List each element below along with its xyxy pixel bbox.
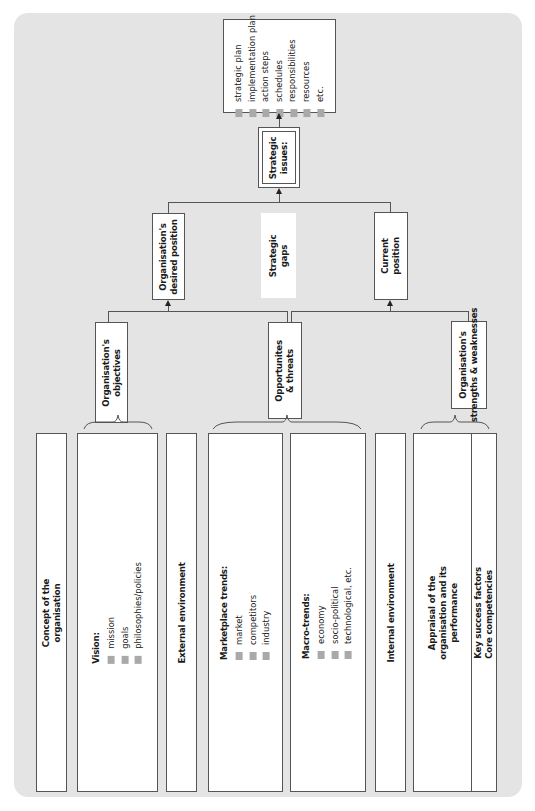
internal-environment-box: Internal environment <box>375 433 406 792</box>
list-item: action steps <box>259 15 273 117</box>
vision-content: Vision: mission goals philosophies/polic… <box>90 562 145 664</box>
list-item: industry <box>259 565 273 659</box>
strategic-issues-label: Strategic issues: <box>268 136 290 179</box>
brace-external-icon <box>212 414 362 430</box>
arrow-up-icon <box>276 113 282 119</box>
bullet-square-icon <box>318 650 325 658</box>
bullet-square-icon <box>121 655 128 663</box>
list-item: resources <box>300 15 314 117</box>
strengths-weaknesses-box: Organisation's strengths & weaknesses <box>451 321 487 409</box>
list-item: mission <box>104 562 118 664</box>
list-item: philosophies/policies <box>131 562 145 664</box>
list-item: etc. <box>313 15 327 117</box>
vision-box: Vision: mission goals philosophies/polic… <box>77 433 158 792</box>
list-item: strategic plan <box>232 15 246 117</box>
connector-line <box>390 202 391 212</box>
external-environment-box: External environment <box>166 433 197 792</box>
arrow-up-icon <box>387 300 393 306</box>
arrow-up-icon <box>276 188 282 194</box>
marketplace-trends-content: Marketplace trends: market competitors i… <box>218 565 273 659</box>
bullet-square-icon <box>235 652 242 660</box>
list-item: responsibilities <box>286 15 300 117</box>
bullet-square-icon <box>332 650 339 658</box>
bullet-square-icon <box>107 655 114 663</box>
list-item: market <box>232 565 246 659</box>
objectives-box: Organisation's objectives <box>95 322 128 423</box>
key-factors-label: Key success factors Core competencies <box>473 567 495 659</box>
desired-position-box: Organisation's desired position <box>152 213 185 300</box>
vision-heading: Vision: <box>90 562 101 664</box>
connector-line <box>279 193 280 202</box>
appraisal-section: Appraisal of the organisation and its pe… <box>414 434 471 791</box>
strategic-gaps-label: Strategic gaps <box>268 234 290 277</box>
bullet-square-icon <box>303 109 310 117</box>
opportunities-threats-box: Opportunites & threats <box>268 322 302 419</box>
desired-position-label: Organisation's desired position <box>158 219 180 294</box>
bullet-square-icon <box>235 109 242 117</box>
outputs-list: strategic plan implementation plan actio… <box>232 15 327 117</box>
connector-line <box>168 202 391 203</box>
macro-trends-heading: Macro-trends: <box>301 567 312 659</box>
strategic-gaps-box: Strategic gaps <box>261 213 296 298</box>
appraisal-label: Appraisal of the organisation and its pe… <box>426 566 459 659</box>
outputs-box: strategic plan implementation plan actio… <box>223 19 336 113</box>
connector-line <box>291 311 292 322</box>
list-item: socio-political <box>328 567 342 659</box>
external-environment-label: External environment <box>176 562 187 663</box>
connector-line <box>291 311 469 312</box>
bullet-square-icon <box>263 652 270 660</box>
concept-box: Concept of the organisation <box>36 433 67 792</box>
macro-trends-content: Macro-trends: economy socio-political te… <box>301 567 356 659</box>
connector-line <box>108 311 109 322</box>
marketplace-trends-heading: Marketplace trends: <box>218 565 229 659</box>
list-item: implementation plan <box>246 15 260 117</box>
brace-vision-icon <box>83 414 153 430</box>
strengths-weaknesses-label: Organisation's strengths & weaknesses <box>458 308 480 422</box>
strategic-issues-box: Strategic issues: <box>258 127 300 188</box>
macro-trends-box: Macro-trends: economy socio-political te… <box>290 433 366 792</box>
key-factors-section: Key success factors Core competencies <box>472 434 496 791</box>
arrow-up-icon <box>165 300 171 306</box>
connector-line <box>108 311 288 312</box>
current-position-label: Current position <box>380 237 402 275</box>
internal-environment-label: Internal environment <box>385 563 396 662</box>
bullet-square-icon <box>135 655 142 663</box>
list-item: goals <box>118 562 132 664</box>
marketplace-trends-box: Marketplace trends: market competitors i… <box>208 433 283 792</box>
brace-internal-icon <box>420 414 490 430</box>
opportunities-threats-label: Opportunites & threats <box>274 340 296 402</box>
list-item: schedules <box>273 15 287 117</box>
bullet-square-icon <box>262 109 269 117</box>
concept-label: Concept of the organisation <box>41 578 63 646</box>
connector-line <box>168 202 169 213</box>
current-position-box: Current position <box>374 212 408 300</box>
bullet-square-icon <box>249 109 256 117</box>
list-item: economy <box>315 567 329 659</box>
appraisal-box: Appraisal of the organisation and its pe… <box>413 433 497 792</box>
bullet-square-icon <box>290 109 297 117</box>
connector-line <box>279 118 280 127</box>
list-item: competitors <box>246 565 260 659</box>
objectives-label: Organisation's objectives <box>101 339 123 407</box>
connector-line <box>287 311 288 322</box>
bullet-square-icon <box>317 109 324 117</box>
bullet-square-icon <box>345 650 352 658</box>
list-item: technological, etc. <box>342 567 356 659</box>
bullet-square-icon <box>249 652 256 660</box>
